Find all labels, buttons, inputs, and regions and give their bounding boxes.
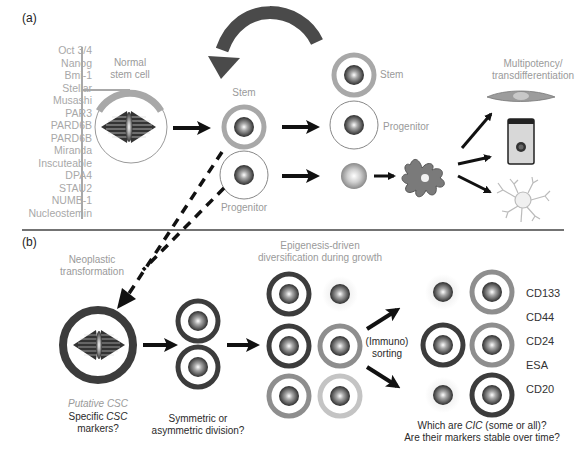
differentiating-cell-icon [341,163,367,189]
stem-label: Stem [224,87,264,99]
normal-stem-cell-label: Normal stem cell [100,57,160,80]
putative-csc-icon [63,310,133,380]
division-label: Symmetric or asymmetric division? [146,413,250,436]
curved-arrow-icon [208,13,317,79]
panel-b-label: (b) [22,236,37,250]
panel-a-label: (a) [22,12,37,26]
normal-stem-cell-icon [95,91,167,163]
stem-label: Stem [380,69,403,81]
arrow-icon [367,367,397,386]
progenitor-cell-icon [330,101,378,149]
marker-item: Miranda [0,144,92,156]
arrow-icon [462,114,491,148]
multipotency-label: Multipotency/ transdifferentiation [485,58,581,81]
immuno-sorting-label: (Immuno) sorting [364,336,410,359]
specific-markers-label: Specific CSC markers? [50,411,146,434]
marker-item: STAU2 [0,182,92,194]
diversified-cells-grid [269,274,360,416]
neuron-cell-icon [497,177,550,222]
arrow-icon [367,310,397,329]
marker-item: Nucleostemin [0,207,92,219]
progenitor-label: Progenitor [214,202,274,214]
dividing-cell-icon [178,301,218,387]
progenitor-label: Progenitor [383,121,429,133]
arrow-icon [458,157,490,164]
dashed-arrow-icon [128,152,224,295]
marker-item: Oct 3/4 [0,44,92,56]
amoeboid-cell-icon [402,159,444,196]
marker-item: Bmi-1 [0,69,92,81]
marker-item: Nanog [0,57,92,69]
arrow-icon [458,176,490,192]
cic-question-label: Which are CIC (some or all)? Are their m… [382,420,582,443]
marker-item: Musashi [0,94,92,106]
putative-csc-label: Putative CSC [58,398,138,410]
marker-item: PARD6B [0,132,92,144]
cd-marker: CD133 [526,287,560,300]
neoplastic-transformation-label: Neoplastic transformation [52,254,132,277]
stem-cell-icon [224,107,264,147]
marker-item: DPA4 [0,169,92,181]
cd-marker: CD20 [526,383,554,396]
stem-cell-icon [334,55,374,95]
cd-marker: ESA [526,359,548,372]
sorted-cells-grid [423,272,512,415]
epithelial-cell-icon [508,119,534,164]
fibroblast-cell-icon [487,91,555,102]
marker-item: NUMB-1 [0,194,92,206]
marker-item: PAR3 [0,107,92,119]
cd-marker: CD24 [526,335,554,348]
marker-item: PARD6B [0,119,92,131]
marker-item: Inscuteable [0,157,92,169]
arrowhead-icon [117,288,136,309]
cd-marker: CD44 [526,311,554,324]
marker-item: Stellar [0,82,92,94]
progenitor-cell-icon [220,151,268,199]
epigenesis-label: Epigenesis-driven diversification during… [250,240,390,263]
